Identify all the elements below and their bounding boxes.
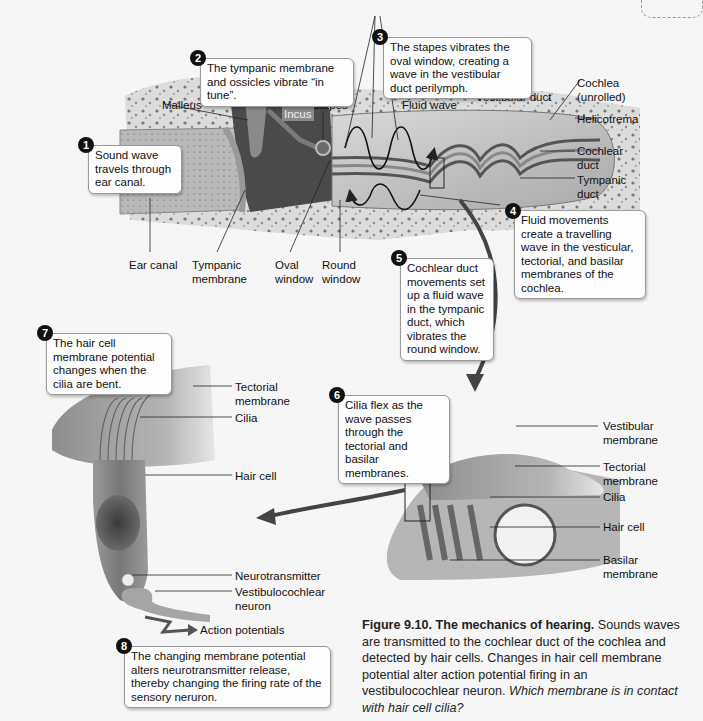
label-round-window: Round window (322, 258, 367, 286)
callout-step-5: Cochlear duct movements set up a fluid w… (400, 258, 494, 361)
label-fluid-wave: Fluid wave (402, 98, 457, 112)
label-helicotrema: Helicotrema (577, 112, 638, 126)
callout-step-1: Sound wave travels through ear canal. (88, 145, 182, 194)
label-incus: Incus (282, 107, 314, 121)
label-basilar-membrane: Basilar membrane (603, 553, 683, 581)
label-malleus: Malleus (162, 98, 202, 112)
label-cilia-organ: Cilia (603, 490, 625, 504)
callout-step-4: Fluid movements create a travelling wave… (514, 210, 646, 299)
callout-step-8: The changing membrane potential alters n… (124, 646, 331, 708)
label-action-potentials: Action potentials (200, 623, 284, 637)
label-cochlear-duct: Cochlear duct (577, 144, 627, 172)
callout-step-6: Cilia flex as the wave passes through th… (338, 395, 450, 484)
figure-caption: Figure 9.10. The mechanics of hearing. S… (362, 617, 680, 716)
step-number-4: 4 (505, 203, 521, 219)
label-hair-cell-organ: Hair cell (603, 520, 645, 534)
callout-step-2: The tympanic membrane and ossicles vibra… (200, 58, 354, 107)
step-number-7: 7 (37, 325, 53, 341)
figure-title: The mechanics of hearing. (436, 618, 595, 632)
callout-step-7: The hair cell membrane potential changes… (46, 333, 172, 395)
figure-number: Figure 9.10. (362, 618, 432, 632)
label-ear-canal: Ear canal (129, 258, 178, 272)
step-number-3: 3 (372, 29, 388, 45)
label-vestibulocochlear-neuron: Vestibulocochlear neuron (235, 585, 325, 613)
label-hair-cell: Hair cell (235, 469, 277, 483)
label-tympanic-duct: Tympanic duct (577, 173, 632, 201)
label-tympanic-membrane: Tympanic membrane (192, 258, 254, 286)
callout-step-3: The stapes vibrates the oval window, cre… (383, 37, 532, 99)
label-tectorial-membrane-cell: Tectorial membrane (235, 380, 315, 408)
step-number-8: 8 (116, 638, 132, 654)
label-oval-window: Oval window (275, 258, 320, 286)
step-number-5: 5 (391, 250, 407, 266)
step-number-1: 1 (78, 137, 94, 153)
label-vestibular-membrane: Vestibular membrane (603, 419, 683, 447)
step-number-2: 2 (190, 50, 206, 66)
label-cilia-cell: Cilia (235, 411, 257, 425)
label-tectorial-membrane-organ: Tectorial membrane (603, 460, 683, 488)
label-neurotransmitter: Neurotransmitter (235, 569, 321, 583)
step-number-6: 6 (329, 387, 345, 403)
label-cochlea-unrolled: Cochlea (unrolled) (577, 76, 642, 104)
